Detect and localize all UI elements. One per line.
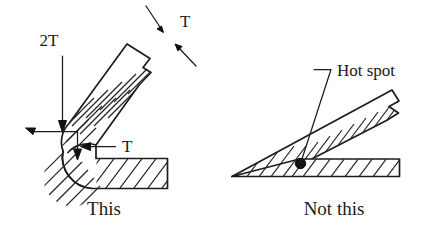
diagram-canvas: T 2T T This [0, 0, 436, 230]
bad-practice-diagram: Hot spot Not this [232, 61, 426, 219]
figure-root: T 2T T This [0, 0, 436, 230]
top-thickness-dimension: T [146, 6, 196, 66]
good-practice-caption: This [87, 198, 121, 219]
thickness-label-top: T [180, 12, 191, 31]
good-practice-diagram: T 2T T This [26, 6, 197, 222]
throat-dimension-arrowhead [26, 128, 36, 135]
bend-radius-label: 2T [40, 31, 60, 50]
bend-radius-callout: 2T [40, 31, 67, 133]
thickness-arrow-upper-shaft [146, 6, 162, 30]
thickness-arrow-upper-head [157, 26, 164, 33]
thickness-label-bottom: T [122, 137, 133, 156]
bad-practice-caption: Not this [304, 198, 365, 219]
hot-spot-label: Hot spot [337, 61, 395, 80]
